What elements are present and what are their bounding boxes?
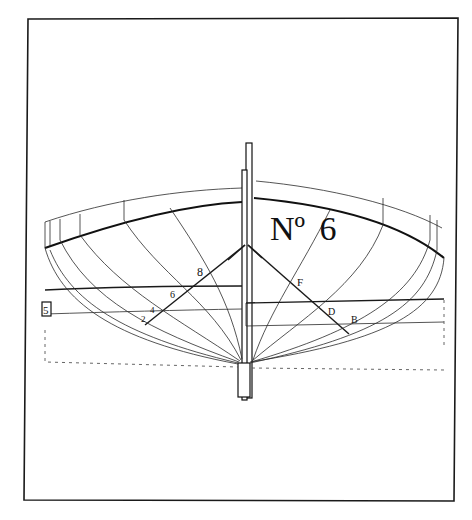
plate-title: Nº 6 [270,210,337,247]
title-number: 6 [320,210,337,247]
station-label-6: 6 [170,289,175,300]
station-label-B: B [351,314,358,325]
hull-body-plan-drawing: 5 Nº 6 8 6 4 2 F D B [0,0,472,520]
station-label-4: 4 [150,305,155,315]
title-prefix: Nº [270,210,305,247]
plate-border [24,18,458,501]
station-label-2: 2 [141,314,146,324]
station-label-8: 8 [197,265,203,279]
station-label-D: D [328,306,335,317]
margin-mark-label: 5 [43,304,49,316]
station-label-F: F [297,276,303,288]
stern-post [238,143,252,400]
